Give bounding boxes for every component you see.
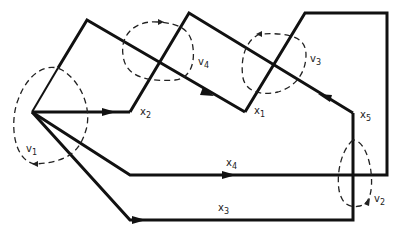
label-x3: x3 [218, 203, 229, 216]
label-x5: x5 [360, 110, 371, 123]
loop-v4 [123, 22, 194, 81]
label-v2: v2 [374, 194, 385, 207]
edge-outer-path [32, 13, 387, 179]
label-v1: v1 [26, 144, 37, 157]
edge-x3-path [32, 112, 353, 224]
label-x2: x2 [140, 107, 151, 120]
loop-v2 [338, 140, 371, 207]
label-v4: v4 [198, 57, 209, 70]
label-v3: v3 [310, 54, 321, 67]
flow-diagram [0, 0, 405, 233]
edge-x2 [32, 108, 130, 116]
label-x1: x1 [254, 106, 265, 119]
label-x4: x4 [226, 158, 237, 171]
